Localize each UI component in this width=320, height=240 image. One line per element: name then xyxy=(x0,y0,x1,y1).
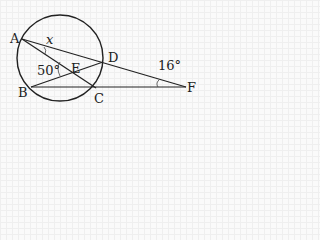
label-F: F xyxy=(187,80,196,95)
angle-16-arc xyxy=(157,79,160,87)
angle-16-label: 16° xyxy=(158,58,181,73)
geometry-diagram: A B C D E F x 50° 16° xyxy=(0,0,206,113)
angle-x-label: x xyxy=(46,32,54,47)
label-A: A xyxy=(9,31,20,46)
angle-50-label: 50° xyxy=(37,63,60,78)
label-B: B xyxy=(18,85,28,100)
angle-x-arc xyxy=(44,47,46,54)
label-E: E xyxy=(71,61,81,76)
label-D: D xyxy=(108,50,118,65)
circle xyxy=(17,15,103,101)
label-C: C xyxy=(94,91,104,106)
